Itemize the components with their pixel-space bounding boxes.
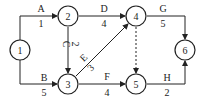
node-6: 6	[175, 40, 195, 60]
activity-c: C 2	[61, 27, 81, 73]
activity-g-duration: 5	[161, 18, 166, 29]
activity-a-name: A	[37, 3, 45, 14]
activity-e: E 3	[76, 24, 128, 76]
node-2-label: 2	[66, 11, 71, 22]
diagram-canvas: A 1 B 5 C 2 D 4 E 3 F 4 G 5	[0, 0, 199, 105]
activity-d-duration: 4	[102, 18, 107, 29]
node-4: 4	[126, 6, 146, 26]
activity-f: F 4	[79, 71, 125, 98]
activity-d-name: D	[100, 3, 107, 14]
activity-b-name: B	[41, 72, 48, 83]
node-3-label: 3	[66, 79, 71, 90]
node-4-label: 4	[134, 11, 139, 22]
activity-h-name: H	[163, 72, 170, 83]
activity-f-duration: 4	[105, 87, 110, 98]
activity-g-name: G	[159, 3, 166, 14]
node-2: 2	[58, 6, 78, 26]
activity-f-name: F	[104, 71, 110, 82]
node-1-label: 1	[18, 45, 23, 56]
activity-a-duration: 1	[39, 18, 44, 29]
node-6-label: 6	[183, 45, 188, 56]
node-3: 3	[58, 74, 78, 94]
node-5: 5	[126, 74, 146, 94]
activity-d: D 4	[79, 3, 125, 29]
node-1: 1	[10, 40, 30, 60]
activity-e-duration: 3	[85, 62, 96, 73]
activity-g: G 5	[147, 3, 185, 39]
activity-b: B 5	[20, 60, 57, 98]
activity-b-duration: 5	[42, 87, 47, 98]
node-5-label: 5	[134, 79, 139, 90]
activity-a: A 1	[20, 3, 57, 40]
activity-c-duration: 2	[70, 42, 81, 47]
activity-h-duration: 2	[165, 87, 170, 98]
activity-h: H 2	[147, 61, 185, 98]
network-diagram: A 1 B 5 C 2 D 4 E 3 F 4 G 5	[0, 0, 199, 105]
